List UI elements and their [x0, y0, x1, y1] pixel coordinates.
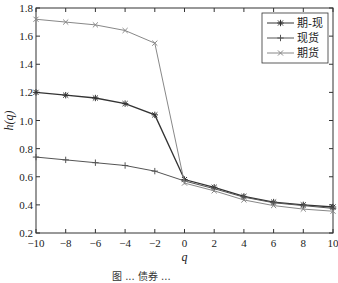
y-tick-label: 1.2	[19, 86, 33, 98]
x-tick-label: 0	[182, 237, 188, 249]
legend-entry: 期-现	[297, 17, 323, 30]
figure-caption: 图 ... 债券 ...	[112, 268, 171, 283]
y-tick-label: 0.4	[19, 199, 33, 211]
x-axis-label: q	[182, 250, 188, 264]
y-tick-label: 1.8	[19, 2, 33, 14]
y-tick-label: 0.8	[19, 143, 33, 155]
x-tick-label: −6	[90, 237, 102, 249]
y-tick-label: 1.0	[19, 115, 33, 127]
y-tick-label: 1.4	[19, 58, 33, 70]
y-tick-label: 0.2	[19, 227, 33, 239]
legend-entry: 现货	[297, 31, 319, 45]
x-tick-label: 4	[241, 237, 247, 249]
x-tick-label: −4	[119, 237, 131, 249]
y-axis-label: h(q)	[2, 111, 16, 131]
legend-entry: 期货	[297, 46, 319, 60]
series-0	[33, 89, 336, 210]
x-tick-label: 8	[301, 237, 307, 249]
legend: 期-现现货期货	[262, 13, 328, 63]
x-tick-label: −8	[60, 237, 72, 249]
y-tick-label: 0.6	[19, 171, 33, 183]
x-tick-label: 2	[211, 237, 217, 249]
x-tick-label: −2	[149, 237, 161, 249]
y-tick-label: 1.6	[19, 30, 33, 42]
x-tick-label: 6	[271, 237, 277, 249]
x-tick-label: 10	[328, 237, 338, 249]
